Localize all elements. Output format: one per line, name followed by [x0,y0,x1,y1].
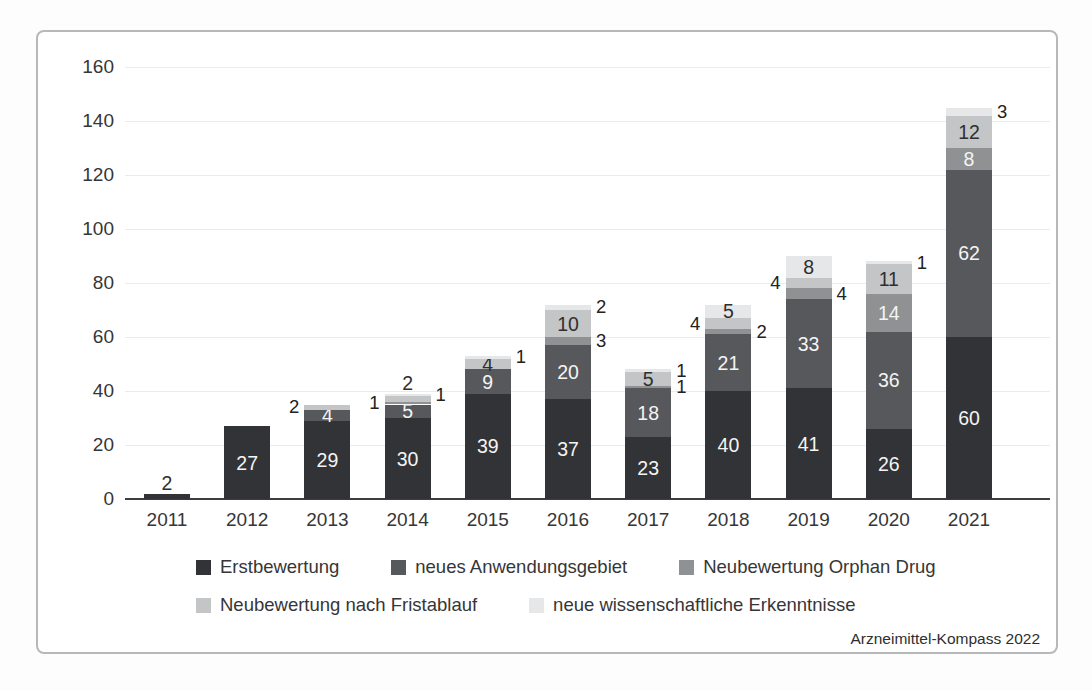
bar-segment-2013-s3 [304,405,350,410]
y-axis-tick-label: 0 [54,488,114,510]
bar-value-label: 1 [676,361,686,381]
x-axis-label-2016: 2016 [526,509,610,531]
gridline-y140 [125,121,1050,122]
y-axis-tick-label: 80 [54,272,114,294]
bar-value-label: 2 [756,322,766,342]
bar-value-label: 1 [516,347,526,367]
source-credit: Arzneimittel-Kompass 2022 [850,630,1040,648]
bar-value-label: 11 [866,268,912,290]
bar-segment-2016-s4 [545,305,591,310]
bar-value-label: 2 [289,397,299,417]
y-axis-tick-label: 160 [54,56,114,78]
bar-value-label: 3 [596,331,606,351]
bar-value-label: 1 [436,385,446,405]
x-axis-label-2020: 2020 [847,509,931,531]
bar-value-label: 14 [866,302,912,324]
bar-segment-2019-s3 [786,278,832,289]
bar-value-label: 20 [545,361,591,383]
x-axis-label-2018: 2018 [686,509,770,531]
bar-value-label: 27 [224,452,270,474]
bar-segment-2018-s2 [705,329,751,334]
bar-value-label: 2 [137,472,197,494]
y-axis-tick-label: 100 [54,218,114,240]
bar-value-label: 12 [946,121,992,143]
x-axis-label-2017: 2017 [606,509,690,531]
bar-segment-2020-s4 [866,261,912,264]
bar-value-label: 1 [369,393,379,413]
gridline-y100 [125,229,1050,230]
bar-value-label: 8 [786,256,832,278]
legend: Erstbewertungneues AnwendungsgebietNeube… [196,556,988,632]
bar-value-label: 40 [705,434,751,456]
bar-value-label: 3 [997,102,1007,122]
bar-value-label: 8 [946,148,992,170]
legend-item: Erstbewertung [196,556,339,578]
bar-segment-2015-s4 [465,356,511,359]
y-axis-tick-label: 140 [54,110,114,132]
bar-value-label: 4 [837,284,847,304]
bar-value-label: 10 [545,313,591,335]
legend-item: Neubewertung Orphan Drug [679,556,935,578]
bar-value-label: 4 [770,273,780,293]
bar-value-label: 37 [545,438,591,460]
bar-value-label: 2 [378,372,438,394]
legend-item: neue wissenschaftliche Erkenntnisse [529,594,855,616]
legend-swatch [529,598,544,613]
bar-segment-2011-s0 [144,494,190,499]
bar-value-label: 39 [465,435,511,457]
legend-swatch [196,560,211,575]
y-axis-tick-label: 120 [54,164,114,186]
x-axis-label-2012: 2012 [205,509,289,531]
bar-value-label: 62 [946,242,992,264]
legend-label: neue wissenschaftliche Erkenntnisse [553,594,855,616]
legend-label: Erstbewertung [220,556,339,578]
bar-value-label: 33 [786,333,832,355]
bar-value-label: 18 [625,402,671,424]
page: { "source_credit": "Arzneimittel-Kompass… [0,0,1092,691]
bar-value-label: 30 [385,448,431,470]
x-axis-label-2011: 2011 [125,509,209,531]
bar-segment-2014-s4 [385,394,431,397]
bar-value-label: 23 [625,457,671,479]
legend-label: Neubewertung Orphan Drug [703,556,935,578]
legend-item: neues Anwendungsgebiet [391,556,627,578]
bar-value-label: 41 [786,433,832,455]
bar-segment-2017-s4 [625,369,671,372]
legend-row-1: Erstbewertungneues AnwendungsgebietNeube… [196,556,988,578]
x-axis-label-2021: 2021 [927,509,1011,531]
gridline-y120 [125,175,1050,176]
bar-value-label: 60 [946,407,992,429]
x-axis-label-2014: 2014 [366,509,450,531]
bar-value-label: 1 [917,253,927,273]
legend-row-2: Neubewertung nach Fristablaufneue wissen… [196,594,988,616]
x-axis-label-2015: 2015 [446,509,530,531]
y-axis-tick-label: 40 [54,380,114,402]
bar-value-label: 5 [705,300,751,322]
bar-value-label: 4 [690,314,700,334]
gridline-y160 [125,67,1050,68]
chart-panel: 0204060801001201401602201127201229422013… [36,30,1058,654]
bar-segment-2019-s2 [786,288,832,299]
x-axis-label-2019: 2019 [767,509,851,531]
bar-segment-2016-s2 [545,337,591,345]
legend-swatch [196,598,211,613]
bar-value-label: 21 [705,352,751,374]
y-axis-tick-label: 20 [54,434,114,456]
bar-segment-2021-s4 [946,108,992,116]
legend-swatch [391,560,406,575]
bar-segment-2014-s2 [385,402,431,405]
legend-swatch [679,560,694,575]
legend-item: Neubewertung nach Fristablauf [196,594,477,616]
legend-label: Neubewertung nach Fristablauf [220,594,477,616]
y-axis-tick-label: 60 [54,326,114,348]
legend-label: neues Anwendungsgebiet [415,556,627,578]
bar-value-label: 2 [596,297,606,317]
x-axis-label-2013: 2013 [285,509,369,531]
bar-value-label: 26 [866,453,912,475]
bar-value-label: 29 [304,449,350,471]
bar-value-label: 36 [866,369,912,391]
bar-segment-2014-s3 [385,396,431,401]
